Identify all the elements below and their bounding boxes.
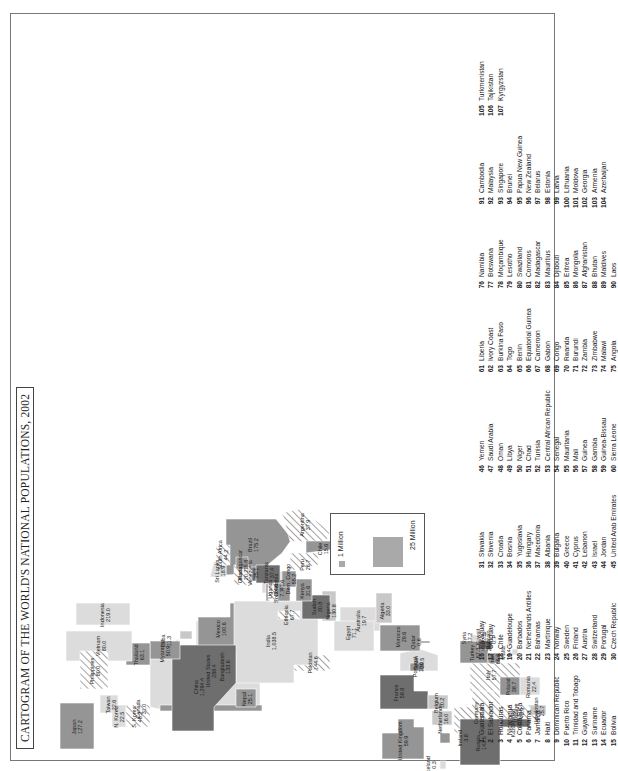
key-entry: 88Bhutan xyxy=(590,209,599,293)
key-number: 21 xyxy=(524,653,533,665)
population-value-label: 219.0 xyxy=(105,608,111,622)
key-entry: 30Czech Republic xyxy=(609,573,618,665)
key-number: 27 xyxy=(580,653,589,665)
key-number: 26 xyxy=(571,653,580,665)
population-value-label: 11.3 xyxy=(166,636,172,646)
key-number: 62 xyxy=(486,365,495,377)
key-country-name: Gambia xyxy=(591,438,598,461)
key-column: 91Cambodia92Malaysia93Singapore94Brunei9… xyxy=(477,117,551,209)
key-entry: 18Chile xyxy=(496,573,505,665)
key-entry: 73Zimbabwe xyxy=(590,293,599,377)
key-country-name: United Arab Emirates xyxy=(610,495,617,557)
key-entry: 41Cyprus xyxy=(571,477,580,573)
key-column: 61Liberia62Ivory Coast63Burkina Faso64To… xyxy=(477,293,551,377)
key-entry: 6Panama xyxy=(524,665,533,751)
legend-swatch-big xyxy=(373,537,403,567)
key-number: 78 xyxy=(496,281,505,293)
key-country-name: Rwanda xyxy=(563,337,570,361)
key-entry: 27Austria xyxy=(580,573,589,665)
population-value-label: 20.2 xyxy=(243,570,249,581)
key-entry: 40Greece xyxy=(562,477,571,573)
key-country-name: Namibia xyxy=(478,253,485,277)
legend-swatch-small xyxy=(339,561,345,567)
key-entry: 79Lesotho xyxy=(505,209,514,293)
key-country-name: Moldova xyxy=(572,168,579,193)
key-number: 66 xyxy=(524,365,533,377)
key-number: 70 xyxy=(562,365,571,377)
population-value-label: 288.4 xyxy=(211,664,217,678)
key-number: 16 xyxy=(477,653,486,665)
population-value-label: 67.7 xyxy=(289,610,295,621)
key-country-name: Swaziland xyxy=(516,247,523,277)
key-country-name: Sierra Leone xyxy=(610,423,617,461)
key-number: 73 xyxy=(590,365,599,377)
key-country-name: Bahamas xyxy=(534,621,541,649)
key-number: 31 xyxy=(477,561,486,573)
key-number: 83 xyxy=(543,281,552,293)
population-value-label: 17.2 xyxy=(467,633,473,644)
key-country-name: Laos xyxy=(610,263,617,277)
key-number: 24 xyxy=(552,653,561,665)
key-number: 79 xyxy=(505,281,514,293)
key-country-name: Guadeloupe xyxy=(506,613,513,649)
key-entry: 92Malaysia xyxy=(486,117,495,209)
population-value-label: 1,038.5 xyxy=(271,632,277,650)
key-number: 102 xyxy=(580,197,589,209)
key-entry: 76Namibia xyxy=(477,209,486,293)
key-number: 8 xyxy=(543,739,552,751)
key-country-name: Slovakia xyxy=(478,532,485,557)
key-country-name: Estonia xyxy=(544,171,551,193)
key-entry: 65Benin xyxy=(515,293,524,377)
key-number: 11 xyxy=(571,739,580,751)
key-country-name: Libya xyxy=(506,445,513,461)
key-number: 76 xyxy=(477,281,486,293)
population-value-label: 22.5 xyxy=(119,712,125,723)
key-number: 57 xyxy=(580,465,589,477)
key-number: 75 xyxy=(609,365,618,377)
key-country-name: Comoros xyxy=(525,250,532,277)
population-value-label: 80.0 xyxy=(101,641,107,652)
key-entry: 61Liberia xyxy=(477,293,486,377)
key-country-name: Armenia xyxy=(591,168,598,193)
key-country-name: Niger xyxy=(516,445,523,461)
key-number: 6 xyxy=(524,739,533,751)
key-entry: 71Burundi xyxy=(571,293,580,377)
key-entry: 36Hungary xyxy=(524,477,533,573)
population-value-label: 59.8 xyxy=(399,688,405,699)
key-entry: 29Portugal xyxy=(599,573,608,665)
population-value-label: 48.2 xyxy=(137,712,143,723)
key-entry: 48Oman xyxy=(496,377,505,477)
key-country-name: Guinea-Bissau xyxy=(600,418,607,461)
key-country-name: Mali xyxy=(572,449,579,461)
key-entry: 38Albania xyxy=(543,477,552,573)
key-entry: 58Gambia xyxy=(590,377,599,477)
key-number: 61 xyxy=(477,365,486,377)
key-entry: 101Moldova xyxy=(571,117,580,209)
key-number: 10 xyxy=(562,739,571,751)
key-country-name: Chad xyxy=(525,445,532,461)
key-entry: 12Guyana xyxy=(580,665,589,751)
key-entry: 4Nicaragua xyxy=(505,665,514,751)
key-country-name: Guinea xyxy=(581,440,588,461)
key-entry: 104Azerbaijan xyxy=(599,117,608,209)
key-entry: 95Papua New Guinea xyxy=(515,117,524,209)
key-entry: 106Tajikistan xyxy=(486,47,495,117)
population-value-label: 0.3 xyxy=(431,761,437,769)
key-country-name: Cambodia xyxy=(478,163,485,193)
key-number: 55 xyxy=(562,465,571,477)
key-entry: 99Latvia xyxy=(552,117,561,209)
key-entry: 62Ivory Coast xyxy=(486,293,495,377)
key-number: 107 xyxy=(496,105,505,117)
key-entry: 105Turkmenistan xyxy=(477,47,486,117)
key-entry: 97Belarus xyxy=(533,117,542,209)
key-country-name: Sweden xyxy=(563,625,570,649)
key-entry: 52Tunisia xyxy=(533,377,542,477)
key-country-name: Malawi xyxy=(600,340,607,361)
key-number: 92 xyxy=(486,197,495,209)
key-number: 25 xyxy=(562,653,571,665)
population-value-label: 100.6 xyxy=(221,622,227,636)
key-number: 80 xyxy=(515,281,524,293)
key-country-name: Jamaica xyxy=(534,710,541,735)
population-value-label: 15.8 xyxy=(243,560,249,571)
key-country-name: Mauritania xyxy=(563,430,570,461)
